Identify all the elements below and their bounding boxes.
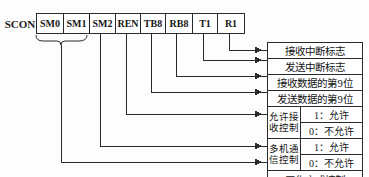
description-tx-interrupt-flag: 发送中断标志 bbox=[268, 59, 362, 75]
receive-enable-value-zero: 0：不允许 bbox=[301, 123, 362, 138]
register-bit-sm0: SM0 bbox=[37, 14, 64, 33]
register-bit-r1: R1 bbox=[218, 14, 244, 33]
description-box-stack: 接收中断标志 发送中断标志 接收数据的第9位 发送数据的第9位 允许接 收控制 … bbox=[267, 42, 363, 177]
description-rx-interrupt-flag: 接收中断标志 bbox=[268, 43, 362, 59]
multiprocessor-comm-values: 1：允许 0：不允许 bbox=[301, 139, 362, 170]
register-bit-rb8: RB8 bbox=[166, 14, 193, 33]
multiprocessor-comm-value-one: 1：允许 bbox=[301, 139, 362, 155]
register-bit-ren: REN bbox=[116, 14, 141, 33]
receive-enable-label-line1: 允许接 bbox=[269, 112, 299, 123]
description-multiprocessor-comm: 多机通 信控制 1：允许 0：不允许 bbox=[268, 139, 362, 171]
description-work-mode-control: 工作方式控制 bbox=[268, 171, 362, 177]
register-name-label: SCON bbox=[4, 16, 36, 32]
description-receive-enable: 允许接 收控制 1：允许 0：不允许 bbox=[268, 107, 362, 139]
multiprocessor-comm-value-zero: 0：不允许 bbox=[301, 155, 362, 170]
receive-enable-label-line2: 收控制 bbox=[269, 123, 299, 134]
multiprocessor-comm-label: 多机通 信控制 bbox=[268, 139, 301, 170]
register-bit-t1: T1 bbox=[193, 14, 218, 33]
description-tx-9th-bit: 发送数据的第9位 bbox=[268, 91, 362, 107]
receive-enable-values: 1：允许 0：不允许 bbox=[301, 107, 362, 138]
register-bit-sm1: SM1 bbox=[64, 14, 90, 33]
multiprocessor-comm-label-line1: 多机通 bbox=[269, 144, 299, 155]
description-rx-9th-bit: 接收数据的第9位 bbox=[268, 75, 362, 91]
register-bit-tb8: TB8 bbox=[141, 14, 166, 33]
receive-enable-value-one: 1：允许 bbox=[301, 107, 362, 123]
register-bit-sm2: SM2 bbox=[90, 14, 116, 33]
register-bit-row: SM0 SM1 SM2 REN TB8 RB8 T1 R1 bbox=[36, 13, 245, 34]
scon-register-diagram: SCON SM0 SM1 SM2 REN TB8 RB8 T1 R1 bbox=[0, 0, 369, 177]
receive-enable-label: 允许接 收控制 bbox=[268, 107, 301, 138]
multiprocessor-comm-label-line2: 信控制 bbox=[269, 155, 299, 166]
